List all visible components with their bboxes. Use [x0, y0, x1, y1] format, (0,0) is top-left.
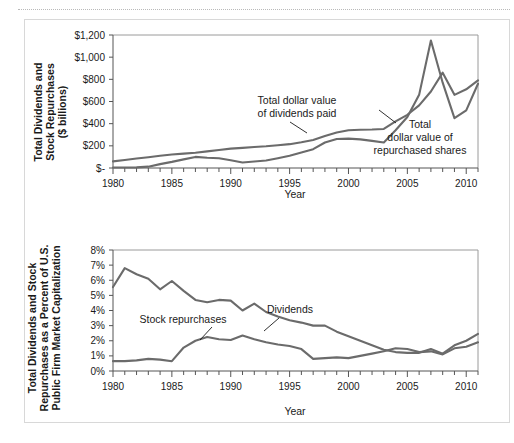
figure-container: Total Dividends and Stock Repurchases ($…: [0, 0, 514, 443]
y-tick-label: $-: [96, 163, 105, 174]
y-tick-label: 1%: [91, 350, 106, 361]
y-tick-label: $600: [83, 96, 106, 107]
bottom-annotation-dividends-leader: [264, 318, 279, 331]
y-tick-label: $200: [83, 140, 106, 151]
bottom-y-axis-title: Total Dividends and Stock Repurchases as…: [26, 244, 62, 411]
bottom-annotation-dividends-label: Dividends: [267, 303, 313, 315]
dividends-repurchases-dollars-chart: Total Dividends and Stock Repurchases ($…: [0, 0, 514, 214]
dividends-repurchases-percent-chart: Total Dividends and Stock Repurchases as…: [0, 213, 514, 443]
top-x-tick-marks: [113, 168, 478, 174]
bottom-y-axis-title-line3: Public Firm Market Capitalization: [50, 245, 62, 410]
top-annotation-repurchases-line1: Total: [409, 118, 431, 130]
x-tick-label: 2000: [337, 381, 360, 392]
y-tick-label: 5%: [91, 290, 106, 301]
top-annotation-repurchases-line3: repurchased shares: [374, 144, 467, 156]
bottom-annotation-repurchases-label: Stock repurchases: [140, 313, 227, 325]
x-tick-label: 1980: [102, 381, 125, 392]
y-tick-label: 7%: [91, 260, 106, 271]
y-tick-label: 3%: [91, 320, 106, 331]
y-tick-label: $800: [83, 74, 106, 85]
bottom-x-tick-marks: [113, 371, 478, 377]
series-line-repurchases-percent: [113, 335, 478, 361]
y-tick-label: 2%: [91, 335, 106, 346]
y-tick-label: 6%: [91, 275, 106, 286]
x-tick-label: 1995: [278, 381, 301, 392]
top-annotation-dividends-line2: of dividends paid: [258, 107, 337, 119]
y-tick-label: 0%: [91, 366, 106, 377]
top-annotation-dividends-line1: Total dollar value: [258, 94, 337, 106]
top-y-axis-title-line1: Total Dividends and: [32, 63, 44, 162]
top-y-tick-labels: $-$200$400$600$800$1,000$1,200: [74, 30, 105, 174]
x-tick-label: 1990: [220, 381, 243, 392]
top-y-axis-title-line3: ($ billions): [56, 86, 68, 139]
top-annotation-repurchases: Total dollar value of repurchased shares: [374, 110, 467, 156]
bottom-y-axis-title-line1: Total Dividends and Stock: [26, 263, 38, 394]
y-tick-label: 4%: [91, 305, 106, 316]
top-annotation-repurchases-line2: dollar value of: [387, 131, 452, 143]
x-tick-label: 1985: [161, 178, 184, 189]
bottom-y-axis-title-line2: Repurchases as a Percent of U.S.: [38, 244, 50, 411]
y-tick-label: 8%: [91, 245, 106, 256]
top-y-tick-marks: [109, 35, 113, 168]
x-tick-label: 1990: [220, 178, 243, 189]
bottom-y-tick-marks: [109, 250, 113, 371]
x-tick-label: 2005: [396, 381, 419, 392]
bottom-annotation-dividends: Dividends: [264, 303, 313, 331]
x-tick-label: 2005: [396, 178, 419, 189]
top-annotation-repurchases-leader: [379, 110, 396, 123]
x-tick-label: 1980: [102, 178, 125, 189]
x-tick-label: 1985: [161, 381, 184, 392]
y-tick-label: $1,000: [74, 52, 105, 63]
x-tick-label: 2010: [455, 381, 478, 392]
y-tick-label: $400: [83, 118, 106, 129]
top-annotation-dividends: Total dollar value of dividends paid: [258, 94, 337, 133]
top-y-axis-title: Total Dividends and Stock Repurchases ($…: [32, 63, 68, 162]
top-annotation-dividends-leader: [290, 122, 307, 133]
x-tick-label: 2010: [455, 178, 478, 189]
top-x-axis-title: Year: [284, 188, 306, 200]
bottom-x-axis-title: Year: [284, 405, 306, 417]
top-y-axis-title-line2: Stock Repurchases: [44, 63, 56, 161]
bottom-x-tick-labels: 1980198519901995200020052010: [102, 381, 478, 392]
x-tick-label: 2000: [337, 178, 360, 189]
bottom-annotation-repurchases: Stock repurchases: [140, 313, 227, 340]
bottom-y-tick-labels: 0%1%2%3%4%5%6%7%8%: [91, 245, 106, 377]
y-tick-label: $1,200: [74, 30, 105, 41]
